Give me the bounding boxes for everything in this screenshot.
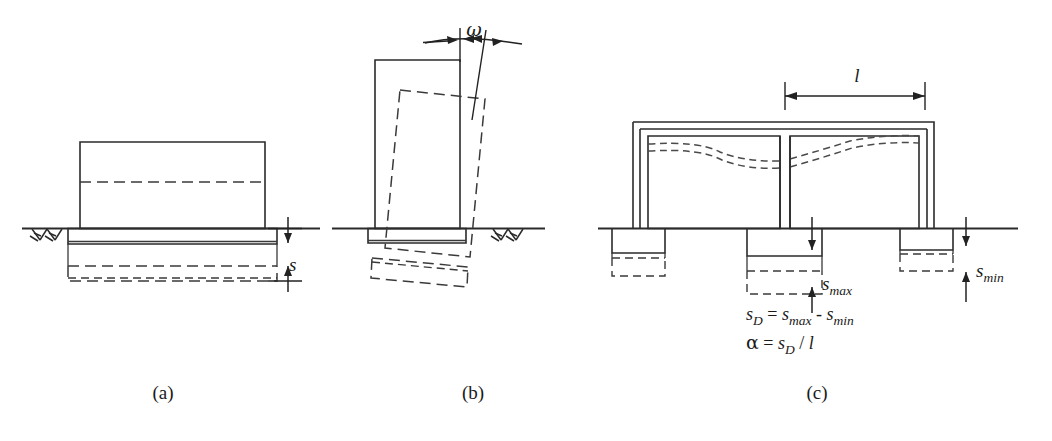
dimension-label-l: l [854,65,859,86]
dimension-label-s: s [289,254,296,275]
panel-caption-c: (c) [806,382,827,404]
technical-diagram-svg: s (a) [0,0,1052,441]
figure-root: s (a) [0,0,1052,441]
figure-background [0,0,1052,441]
panel-caption-b: (b) [462,382,484,404]
panel-caption-a: (a) [152,382,173,404]
dimension-label-omega: ω [466,18,482,40]
